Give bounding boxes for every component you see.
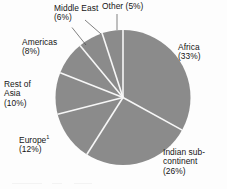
label-indian-subcontinent: Indian sub- continent (26%): [163, 148, 205, 176]
label-middle-east: Middle East (6%): [54, 4, 98, 23]
label-other: Other (5%): [102, 2, 143, 11]
scan-artifact: [52, 183, 62, 184]
label-rest-of-asia: Rest of Asia (10%): [4, 80, 31, 108]
scan-artifact: [12, 183, 42, 184]
pie-chart: Middle East (6%) Other (5%) Americas (8%…: [0, 0, 227, 189]
leader-line-americas: [72, 28, 86, 46]
label-americas: Americas (8%): [22, 38, 57, 57]
label-europe-footnote-marker: 1: [46, 134, 49, 140]
label-europe-value: (12%): [19, 144, 42, 154]
scan-artifact: [74, 183, 92, 184]
label-europe: Europe1(12%): [19, 136, 49, 155]
label-africa: Africa (33%): [178, 43, 201, 62]
